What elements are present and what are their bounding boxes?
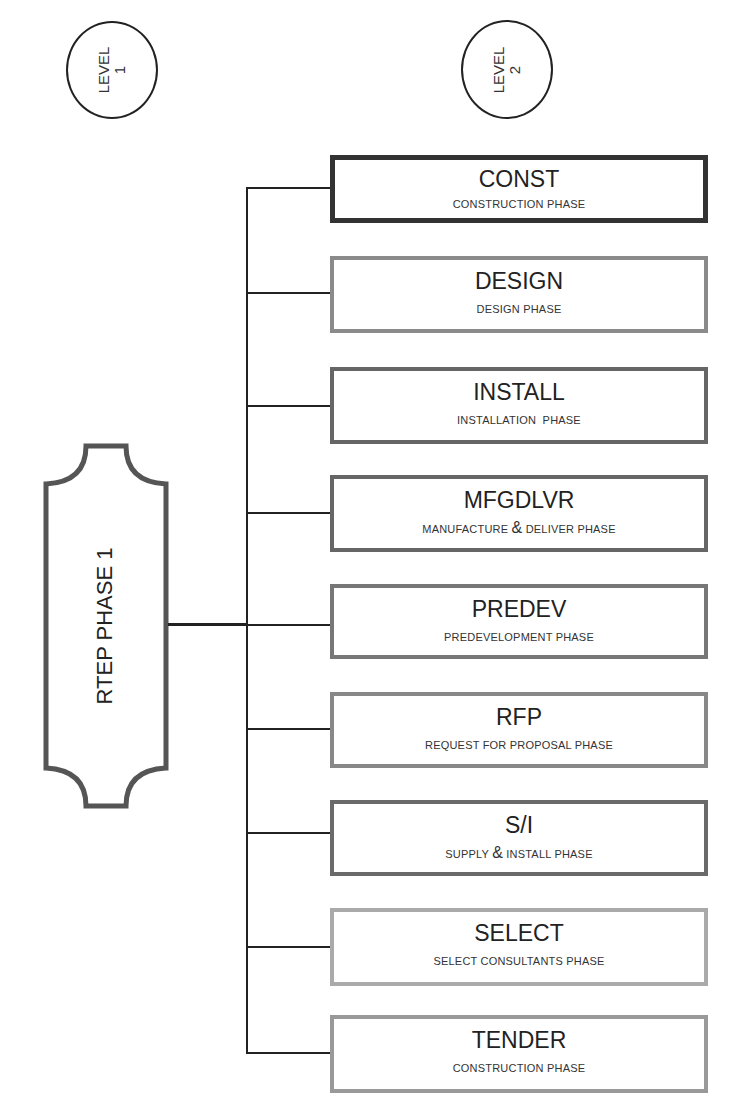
phase-code: CONST bbox=[335, 166, 703, 192]
phase-box-rfp[interactable]: RFP REQUEST FOR PROPOSAL PHASE bbox=[330, 692, 708, 768]
phase-desc: SELECT CONSULTANTS PHASE bbox=[334, 954, 704, 968]
phase-desc: INSTALLATION PHASE bbox=[334, 413, 704, 427]
phase-code: TENDER bbox=[334, 1027, 704, 1053]
phase-code: DESIGN bbox=[334, 268, 704, 294]
phase-desc: CONSTRUCTION PHASE bbox=[334, 1061, 704, 1075]
phase-box-install[interactable]: INSTALL INSTALLATION PHASE bbox=[330, 367, 708, 444]
branch-tender bbox=[246, 1052, 331, 1054]
phase-desc: PREDEVELOPMENT PHASE bbox=[334, 630, 704, 644]
phase-box-select[interactable]: SELECT SELECT CONSULTANTS PHASE bbox=[330, 908, 708, 986]
phase-code: RFP bbox=[334, 704, 704, 730]
branch-install bbox=[246, 405, 331, 407]
trunk-line bbox=[246, 187, 248, 1054]
phase-box-si[interactable]: S/I SUPPLY & INSTALL PHASE bbox=[330, 800, 708, 876]
root-connector bbox=[168, 623, 248, 626]
phase-box-design[interactable]: DESIGN DESIGN PHASE bbox=[330, 256, 708, 333]
branch-mfgdlvr bbox=[246, 512, 331, 514]
phase-box-predev[interactable]: PREDEV PREDEVELOPMENT PHASE bbox=[330, 584, 708, 659]
phase-desc: DESIGN PHASE bbox=[334, 302, 704, 316]
phase-desc: SUPPLY & INSTALL PHASE bbox=[334, 846, 704, 861]
phase-code: MFGDLVR bbox=[334, 487, 704, 513]
root-node-label: RTEP PHASE 1 bbox=[92, 548, 118, 705]
phase-code: S/I bbox=[334, 812, 704, 838]
branch-predev bbox=[246, 624, 331, 626]
phase-box-const[interactable]: CONST CONSTRUCTION PHASE bbox=[330, 155, 708, 223]
branch-const bbox=[246, 187, 331, 189]
branch-rfp bbox=[246, 728, 331, 730]
phase-desc: CONSTRUCTION PHASE bbox=[335, 197, 703, 211]
branch-design bbox=[246, 292, 331, 294]
branch-si bbox=[246, 832, 331, 834]
branch-select bbox=[246, 946, 331, 948]
phase-desc: REQUEST FOR PROPOSAL PHASE bbox=[334, 738, 704, 752]
phase-code: SELECT bbox=[334, 920, 704, 946]
phase-code: PREDEV bbox=[334, 596, 704, 622]
phase-desc: MANUFACTURE & DELIVER PHASE bbox=[334, 521, 704, 536]
phase-code: INSTALL bbox=[334, 379, 704, 405]
phase-box-mfgdlvr[interactable]: MFGDLVR MANUFACTURE & DELIVER PHASE bbox=[330, 475, 708, 552]
phase-box-tender[interactable]: TENDER CONSTRUCTION PHASE bbox=[330, 1015, 708, 1093]
